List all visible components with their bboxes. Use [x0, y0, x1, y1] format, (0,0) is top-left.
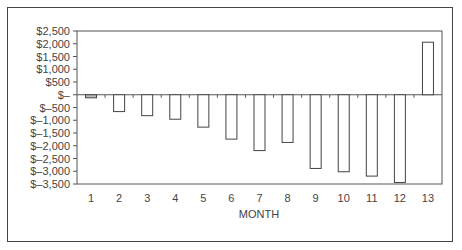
- x-tick-label: 11: [366, 192, 377, 204]
- y-tick-label: $–3,000: [30, 165, 70, 177]
- y-tick-label: $2,500: [36, 25, 70, 37]
- y-tick-label: $1,500: [36, 51, 70, 63]
- x-tick-label: 5: [200, 192, 206, 204]
- y-tick-label: $–: [58, 89, 71, 101]
- x-tick-label: 12: [394, 192, 406, 204]
- bar: [310, 95, 321, 169]
- bar: [86, 95, 97, 98]
- y-tick-label: $–500: [39, 102, 70, 114]
- bar: [198, 95, 209, 127]
- x-tick-label: 8: [285, 192, 291, 204]
- y-tick-label: $–2,000: [30, 140, 70, 152]
- x-axis-title: MONTH: [239, 208, 279, 220]
- bar: [422, 42, 433, 95]
- bar: [254, 95, 265, 151]
- bar: [366, 95, 377, 176]
- x-tick-label: 3: [144, 192, 150, 204]
- bar: [226, 95, 237, 139]
- bar: [142, 95, 153, 116]
- y-tick-label: $1,000: [36, 63, 70, 75]
- bars: [86, 42, 434, 182]
- x-tick-label: 1: [88, 192, 94, 204]
- x-tick-label: 10: [338, 192, 350, 204]
- y-tick-label: $–1,500: [30, 127, 70, 139]
- x-tick-label: 2: [116, 192, 122, 204]
- bar: [282, 95, 293, 143]
- y-tick-label: $–1,000: [30, 114, 70, 126]
- bar: [394, 95, 405, 183]
- bar: [338, 95, 349, 172]
- x-tick-label: 4: [172, 192, 178, 204]
- x-tick-label: 9: [313, 192, 319, 204]
- x-tick-label: 7: [256, 192, 262, 204]
- x-tick-label: 13: [422, 192, 434, 204]
- x-tick-label: 6: [228, 192, 234, 204]
- bar-chart: $2,500$2,000$1,500$1,000$500$–$–500$–1,0…: [0, 0, 462, 250]
- bar: [170, 95, 181, 119]
- y-tick-label: $2,000: [36, 38, 70, 50]
- y-tick-label: $–2,500: [30, 153, 70, 165]
- y-tick-label: $–3,500: [30, 178, 70, 190]
- y-tick-label: $500: [46, 76, 70, 88]
- bar: [114, 95, 125, 112]
